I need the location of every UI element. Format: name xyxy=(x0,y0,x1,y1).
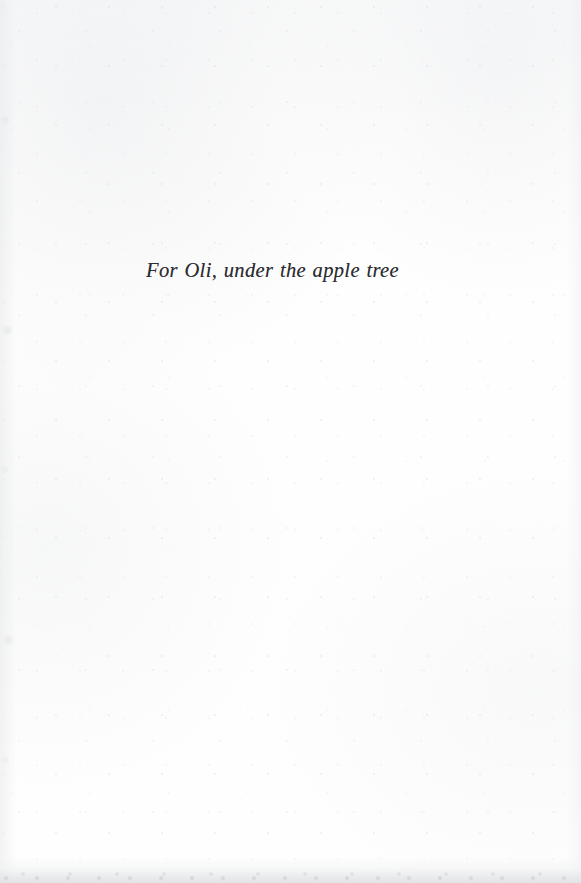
scan-edge-left xyxy=(0,0,16,883)
scan-edge-right xyxy=(567,0,581,883)
dedication-block: For Oli, under the apple tree xyxy=(0,256,581,284)
scan-edge-bottom-speckle xyxy=(0,869,581,883)
dedication-text: For Oli, under the apple tree xyxy=(146,256,399,284)
scanned-page: For Oli, under the apple tree xyxy=(0,0,581,883)
scan-grain-overlay xyxy=(0,0,581,883)
scan-tint-overlay xyxy=(0,0,581,883)
scan-edge-bottom xyxy=(0,857,581,883)
